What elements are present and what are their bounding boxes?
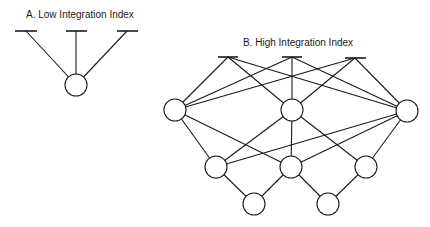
diagram-b-edges [175,57,407,204]
diagram-b-edge [228,57,292,110]
diagram-b-edge [216,111,407,167]
diagram-b-nodes [164,99,418,215]
diagram-a-title: A. Low Integration Index [26,9,134,20]
diagram-b-node-circle [317,193,339,215]
diagram-b-node-circle [164,99,186,121]
diagram-b-edge [291,111,407,167]
diagram-a-nodes [65,74,87,96]
diagram-b-edge [292,110,366,167]
diagram-b-high-integration: B. High Integration Index [164,37,418,215]
diagram-b-node-circle [355,156,377,178]
diagram-b-title: B. High Integration Index [243,37,353,48]
diagram-b-node-circle [243,193,265,215]
diagram-b-node-circle [280,156,302,178]
diagram-b-node-circle [396,100,418,122]
diagram-a-node-circle [65,74,87,96]
diagram-b-edge [292,58,355,110]
diagram-b-node-circle [205,156,227,178]
integration-index-diagram: A. Low Integration Index B. High Integra… [0,0,430,227]
diagram-b-edge [175,57,292,110]
diagram-b-edge [175,110,291,167]
diagram-b-edge [175,58,355,110]
diagram-b-edge [216,110,292,167]
diagram-a-low-integration: A. Low Integration Index [15,9,138,96]
diagram-b-node-circle [281,99,303,121]
diagram-b-edge [292,57,407,111]
